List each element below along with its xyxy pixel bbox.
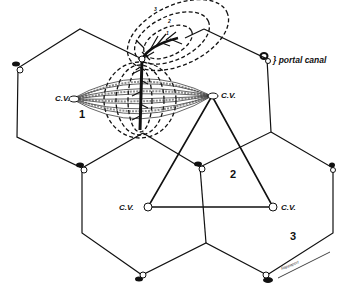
- zone-3-label: 3: [290, 230, 296, 242]
- central-vein-label-bottom-right: C.V.: [281, 203, 296, 212]
- central-vein-label-top-right: C.V.: [221, 91, 236, 100]
- acinus-zone-3-label: 3: [154, 6, 157, 12]
- acinus-triangle: [148, 96, 273, 207]
- hexagon-3-outline: [267, 132, 333, 275]
- portal-triads: [12, 53, 336, 283]
- acinus-zones: [104, 0, 240, 138]
- central-vein-label-top-left: C.V.: [55, 94, 70, 103]
- acinus-zone-1-label: 1: [166, 30, 169, 36]
- acinus-zone-2-label: 2: [168, 18, 171, 24]
- zone-1-label: 1: [79, 108, 85, 120]
- zone-2-label: 2: [230, 168, 236, 180]
- hexagon-4-outline: [82, 168, 267, 275]
- diagram-canvas: [0, 0, 345, 295]
- central-veins: [69, 93, 277, 211]
- central-vein-label-bottom-left: C.V.: [119, 203, 134, 212]
- portal-canal-label: } portal canal: [273, 55, 326, 65]
- hexagon-lobules: [17, 29, 333, 275]
- portal-branch-tree: [132, 32, 182, 130]
